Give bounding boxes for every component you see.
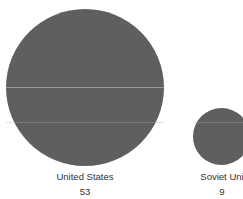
bubble-seam-line (193, 122, 243, 123)
bubble-seam-line (6, 87, 164, 88)
label-united-states: United States (25, 171, 145, 182)
label-soviet-union: Soviet Uni (162, 171, 243, 182)
bubble-chart: United States 53 Soviet Uni 9 (0, 0, 243, 199)
bubble-soviet-union (193, 108, 243, 165)
value-soviet-union: 9 (162, 186, 243, 197)
bubble-seam-line (6, 122, 164, 123)
bubble-united-states (6, 9, 164, 166)
value-united-states: 53 (25, 186, 145, 197)
